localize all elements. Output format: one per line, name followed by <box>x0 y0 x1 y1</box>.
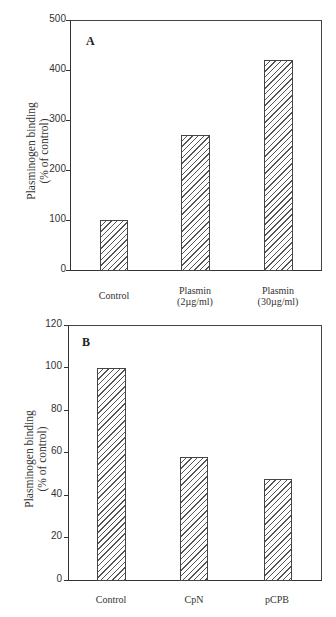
x-label-line: Control <box>71 594 151 605</box>
y-tickmark <box>64 452 68 453</box>
bar-pcpb <box>264 479 292 581</box>
y-tick: 40 <box>32 488 62 499</box>
y-tickmark <box>64 410 68 411</box>
y-tick: 60 <box>32 445 62 456</box>
chart-panel-b: Plasminogen binding (% of control) B 120… <box>0 0 336 617</box>
y-axis-label-line2: (% of control) <box>36 369 49 549</box>
panel-letter-b: B <box>82 335 90 350</box>
x-label-cpn: CpN <box>154 594 234 605</box>
y-tick: 100 <box>32 360 62 371</box>
x-label-line: CpN <box>154 594 234 605</box>
y-axis-label-b: Plasminogen binding (% of control) <box>23 369 49 549</box>
x-label-line: pCPB <box>237 594 317 605</box>
y-tickmark <box>64 325 68 326</box>
bar-control <box>97 368 126 581</box>
y-tick: 20 <box>32 530 62 541</box>
y-tick: 0 <box>32 573 62 584</box>
y-tickmark <box>64 367 68 368</box>
y-tick: 80 <box>32 403 62 414</box>
y-tickmark <box>64 537 68 538</box>
y-axis-label-line1: Plasminogen binding <box>23 369 36 549</box>
y-tickmark <box>64 495 68 496</box>
bar-cpn <box>180 457 208 581</box>
y-tickmark <box>64 580 68 581</box>
y-tick: 120 <box>32 318 62 329</box>
x-label-pcpb: pCPB <box>237 594 317 605</box>
x-label-control: Control <box>71 594 151 605</box>
